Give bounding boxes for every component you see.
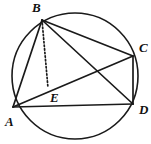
segment-ad [13, 104, 133, 107]
vertex-label-E: E [50, 91, 59, 104]
segment-bc [42, 20, 133, 56]
vertex-label-C: C [139, 41, 148, 54]
segment-ab [13, 20, 42, 107]
geometry-figure: B C D A E [0, 0, 151, 144]
chord-segments [13, 20, 133, 107]
geometry-canvas [0, 0, 151, 144]
vertex-label-A: A [5, 115, 14, 128]
vertex-label-B: B [32, 1, 41, 14]
circumscribed-circle [12, 13, 138, 139]
segment-be [42, 20, 48, 88]
vertex-label-D: D [139, 103, 148, 116]
segment-ac [13, 56, 133, 107]
